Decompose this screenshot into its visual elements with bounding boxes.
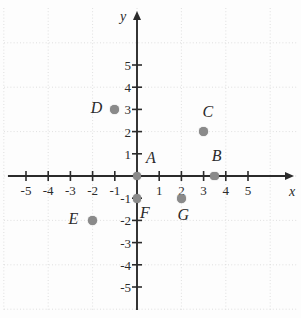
point-label-e: E [69, 211, 79, 227]
point-label-a: A [146, 150, 156, 166]
point-label-d: D [91, 100, 103, 116]
y-tick-label: -4 [109, 259, 131, 272]
x-tick-label: -2 [84, 184, 102, 197]
data-point [88, 216, 97, 225]
x-tick-label: 3 [195, 184, 213, 197]
y-tick-label: 2 [109, 126, 131, 139]
data-point [199, 127, 208, 136]
y-tick-label: 5 [109, 59, 131, 72]
x-tick-label: -3 [61, 184, 79, 197]
point-label-c: C [203, 104, 214, 120]
point-label-b: B [212, 148, 222, 164]
x-tick-label: 4 [217, 184, 235, 197]
x-axis-label: x [289, 185, 295, 199]
y-tick-label: 4 [109, 81, 131, 94]
y-tick-label: -3 [109, 237, 131, 250]
x-tick-label: 5 [239, 184, 257, 197]
data-point [177, 194, 186, 203]
y-tick-label: -1 [109, 192, 131, 205]
x-tick-label: -5 [17, 184, 35, 197]
point-label-g: G [177, 207, 189, 223]
y-tick-label: -2 [109, 214, 131, 227]
coordinate-plane-figure: -5-4-3-2-11234554321-1-2-3-4-5 ABCDEFG x… [0, 0, 301, 318]
y-tick-label: -5 [109, 281, 131, 294]
data-point [133, 194, 142, 203]
y-tick-label: 1 [109, 148, 131, 161]
x-tick-label: -4 [39, 184, 57, 197]
point-label-f: F [140, 205, 150, 221]
data-point [110, 105, 119, 114]
y-axis-label: y [120, 10, 126, 24]
x-tick-label: 1 [150, 184, 168, 197]
